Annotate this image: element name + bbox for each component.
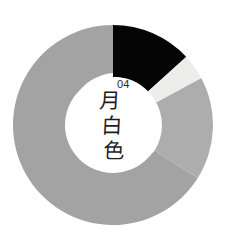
- page-root: 04 月 白 色: [0, 0, 226, 249]
- donut-chart: [0, 0, 226, 249]
- donut-hole: [65, 77, 161, 173]
